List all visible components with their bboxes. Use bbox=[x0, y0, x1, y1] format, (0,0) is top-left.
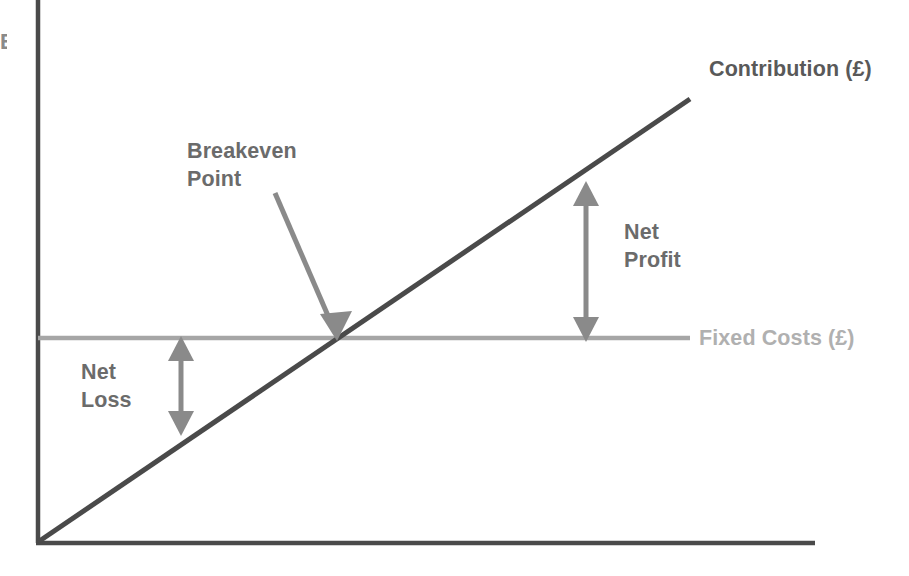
net-profit-arrow bbox=[573, 181, 599, 342]
net-profit-label: Net Profit bbox=[624, 219, 681, 275]
net-loss-label: Net Loss bbox=[81, 359, 132, 415]
contribution-series-label: Contribution (£) bbox=[709, 56, 872, 84]
breakeven-arrow bbox=[275, 193, 352, 341]
breakeven-point-label: Breakeven Point bbox=[187, 138, 297, 194]
chart-drawing-area bbox=[0, 0, 909, 576]
net-loss-arrow bbox=[168, 336, 194, 436]
cropped-edge-glyph: E bbox=[0, 27, 7, 57]
fixed-costs-series-label: Fixed Costs (£) bbox=[699, 325, 855, 353]
breakeven-chart: E Contribution (£) Fixed Costs (£) Break… bbox=[0, 0, 909, 576]
